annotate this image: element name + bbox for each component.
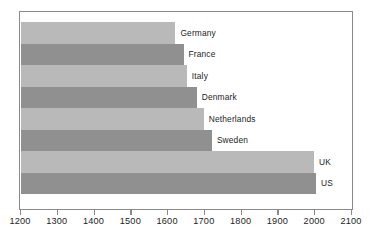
bar-label: US xyxy=(321,178,333,188)
x-tick-mark xyxy=(20,210,21,215)
x-tick-mark xyxy=(351,210,352,215)
bar-netherlands[interactable] xyxy=(21,108,204,130)
plot-area: GermanyFranceItalyDenmarkNetherlandsSwed… xyxy=(19,11,353,210)
bar-row: UK xyxy=(20,151,352,173)
bar-chart: GermanyFranceItalyDenmarkNetherlandsSwed… xyxy=(0,0,374,246)
x-tick-mark xyxy=(241,210,242,215)
bar-row: US xyxy=(20,173,352,195)
bar-row: Denmark xyxy=(20,87,352,109)
x-tick-mark xyxy=(167,210,168,215)
x-tick-mark xyxy=(94,210,95,215)
x-axis: 1200130014001500160017001800190020002100 xyxy=(19,210,353,246)
x-tick-label: 1900 xyxy=(267,216,288,226)
x-tick-label: 1200 xyxy=(9,216,30,226)
x-tick-mark xyxy=(204,210,205,215)
bar-label: Italy xyxy=(192,71,208,81)
x-tick-mark xyxy=(277,210,278,215)
bar-label: Denmark xyxy=(202,92,237,102)
bar-france[interactable] xyxy=(21,44,184,66)
bar-label: UK xyxy=(319,157,331,167)
x-tick-label: 2000 xyxy=(304,216,325,226)
bar-germany[interactable] xyxy=(21,22,175,44)
x-tick-label: 1500 xyxy=(120,216,141,226)
bar-row: Netherlands xyxy=(20,108,352,130)
bar-row: Germany xyxy=(20,22,352,44)
bar-label: Netherlands xyxy=(209,114,256,124)
x-tick-label: 1700 xyxy=(193,216,214,226)
bar-sweden[interactable] xyxy=(21,130,212,152)
bar-label: Sweden xyxy=(217,135,248,145)
x-tick-label: 1800 xyxy=(230,216,251,226)
bar-denmark[interactable] xyxy=(21,87,197,109)
bar-us[interactable] xyxy=(21,173,316,195)
bars-layer: GermanyFranceItalyDenmarkNetherlandsSwed… xyxy=(20,12,352,209)
bar-row: Sweden xyxy=(20,130,352,152)
x-tick-label: 1400 xyxy=(83,216,104,226)
bar-row: France xyxy=(20,44,352,66)
bar-label: Germany xyxy=(180,28,216,38)
bar-row: Italy xyxy=(20,65,352,87)
x-tick-mark xyxy=(314,210,315,215)
x-tick-label: 2100 xyxy=(340,216,361,226)
bar-italy[interactable] xyxy=(21,65,187,87)
x-tick-label: 1600 xyxy=(156,216,177,226)
bar-uk[interactable] xyxy=(21,151,314,173)
x-tick-label: 1300 xyxy=(46,216,67,226)
x-tick-mark xyxy=(57,210,58,215)
bar-label: France xyxy=(189,49,216,59)
x-tick-mark xyxy=(130,210,131,215)
